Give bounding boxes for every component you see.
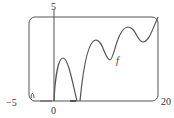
y-max-label: 5 [51, 2, 56, 12]
x-min-label: −5 [6, 98, 17, 108]
function-label-f: f [116, 56, 119, 66]
graph-canvas [0, 0, 174, 118]
function-curve-f [54, 17, 158, 101]
x-max-label: 20 [161, 97, 171, 107]
origin-label: 0 [51, 106, 56, 116]
viewing-window-frame [29, 17, 158, 101]
left-edge-artifact [31, 94, 34, 99]
